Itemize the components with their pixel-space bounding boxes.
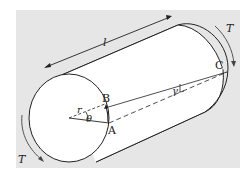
torque-right-label: T [226,22,235,35]
torque-left-label: T [18,153,27,166]
gamma-label: γ [172,85,178,96]
theta-label: θ [86,113,92,124]
point-c-label: C [215,59,223,72]
cylinder-torsion-diagram: l B A C r θ γ T T [0,0,251,181]
length-label: l [103,36,107,49]
point-a-label: A [107,124,117,137]
point-b-label: B [102,92,110,105]
